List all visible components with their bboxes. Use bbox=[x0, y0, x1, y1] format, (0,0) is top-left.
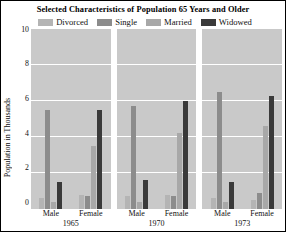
y-tick-label: 6 bbox=[25, 94, 29, 103]
legend-label: Single bbox=[115, 18, 137, 27]
x-tick-label: Male bbox=[117, 210, 157, 219]
y-tick-label: 2 bbox=[25, 163, 29, 172]
bar-single-female-1970[interactable] bbox=[171, 196, 176, 209]
bar-married-male-1970[interactable] bbox=[137, 202, 142, 209]
bar-married-female-1965[interactable] bbox=[91, 146, 96, 209]
x-tick-label: Male bbox=[202, 210, 242, 219]
bar-divorced-female-1973[interactable] bbox=[251, 200, 256, 209]
bar-widowed-female-1965[interactable] bbox=[97, 110, 102, 209]
bar-married-male-1965[interactable] bbox=[51, 202, 56, 209]
plot-area-1970 bbox=[117, 29, 197, 209]
panel-caption-1973: 1973 bbox=[202, 219, 282, 228]
bar-single-female-1973[interactable] bbox=[257, 193, 262, 209]
chart-panels: MaleFemale1965MaleFemale1970MaleFemale19… bbox=[31, 29, 282, 228]
bottom-spacer bbox=[1, 228, 285, 231]
panel-caption-1965: 1965 bbox=[31, 219, 111, 228]
legend-swatch-married-icon bbox=[146, 19, 161, 26]
legend-label: Married bbox=[164, 18, 192, 27]
panel-caption-1970: 1970 bbox=[117, 219, 197, 228]
plot-region: Population in Thousands 0246810 MaleFema… bbox=[1, 29, 285, 228]
x-tick-label: Female bbox=[157, 210, 197, 219]
legend-swatch-divorced-icon bbox=[38, 19, 53, 26]
bar-married-male-1973[interactable] bbox=[223, 202, 228, 209]
x-tick-label: Female bbox=[71, 210, 111, 219]
legend-label: Widowed bbox=[219, 18, 252, 27]
bar-single-female-1965[interactable] bbox=[85, 196, 90, 209]
bar-single-male-1970[interactable] bbox=[131, 106, 136, 209]
y-tick-label: 10 bbox=[21, 24, 29, 33]
bar-divorced-male-1970[interactable] bbox=[125, 196, 130, 209]
bar-groups bbox=[117, 29, 197, 209]
legend-label: Divorced bbox=[56, 18, 88, 27]
legend-item-divorced[interactable]: Divorced bbox=[38, 18, 88, 27]
bar-divorced-male-1973[interactable] bbox=[211, 198, 216, 209]
chart-title: Selected Characteristics of Population 6… bbox=[1, 5, 285, 14]
bar-single-male-1965[interactable] bbox=[45, 110, 50, 209]
bar-single-male-1973[interactable] bbox=[217, 92, 222, 209]
bar-married-female-1970[interactable] bbox=[177, 133, 182, 209]
bar-divorced-female-1965[interactable] bbox=[79, 195, 84, 209]
y-tick-label: 0 bbox=[25, 198, 29, 207]
bar-widowed-male-1970[interactable] bbox=[143, 180, 148, 209]
bar-widowed-male-1973[interactable] bbox=[229, 182, 234, 209]
legend-item-widowed[interactable]: Widowed bbox=[201, 18, 252, 27]
y-axis-ticks: 0246810 bbox=[13, 29, 31, 228]
bar-group-female bbox=[157, 29, 197, 209]
x-axis-labels: MaleFemale bbox=[202, 210, 282, 219]
x-tick-label: Female bbox=[242, 210, 282, 219]
legend-item-single[interactable]: Single bbox=[97, 18, 137, 27]
bar-group-male bbox=[202, 29, 242, 209]
bar-groups bbox=[31, 29, 111, 209]
x-axis-labels: MaleFemale bbox=[117, 210, 197, 219]
chart-panel-1970: MaleFemale1970 bbox=[117, 29, 197, 228]
y-tick-label: 4 bbox=[25, 128, 29, 137]
bar-widowed-female-1970[interactable] bbox=[183, 101, 188, 209]
y-axis-label: Population in Thousands bbox=[1, 29, 13, 228]
legend-item-married[interactable]: Married bbox=[146, 18, 192, 27]
legend-swatch-single-icon bbox=[97, 19, 112, 26]
bar-married-female-1973[interactable] bbox=[263, 126, 268, 209]
bar-divorced-male-1965[interactable] bbox=[39, 198, 44, 209]
bar-group-male bbox=[31, 29, 71, 209]
bar-group-female bbox=[71, 29, 111, 209]
bar-widowed-female-1973[interactable] bbox=[269, 96, 274, 210]
plot-area-1973 bbox=[202, 29, 282, 209]
plot-area-1965 bbox=[31, 29, 111, 209]
bar-divorced-female-1970[interactable] bbox=[165, 195, 170, 209]
bar-groups bbox=[202, 29, 282, 209]
y-tick-label: 8 bbox=[25, 59, 29, 68]
bar-group-female bbox=[242, 29, 282, 209]
x-tick-label: Male bbox=[31, 210, 71, 219]
x-axis-labels: MaleFemale bbox=[31, 210, 111, 219]
chart-panel-1973: MaleFemale1973 bbox=[202, 29, 282, 228]
chart-figure: Selected Characteristics of Population 6… bbox=[1, 1, 285, 231]
chart-legend: DivorcedSingleMarriedWidowed bbox=[1, 18, 285, 27]
legend-swatch-widowed-icon bbox=[201, 19, 216, 26]
y-axis: Population in Thousands 0246810 bbox=[1, 29, 31, 228]
bar-widowed-male-1965[interactable] bbox=[57, 182, 62, 209]
bar-group-male bbox=[117, 29, 157, 209]
chart-panel-1965: MaleFemale1965 bbox=[31, 29, 111, 228]
